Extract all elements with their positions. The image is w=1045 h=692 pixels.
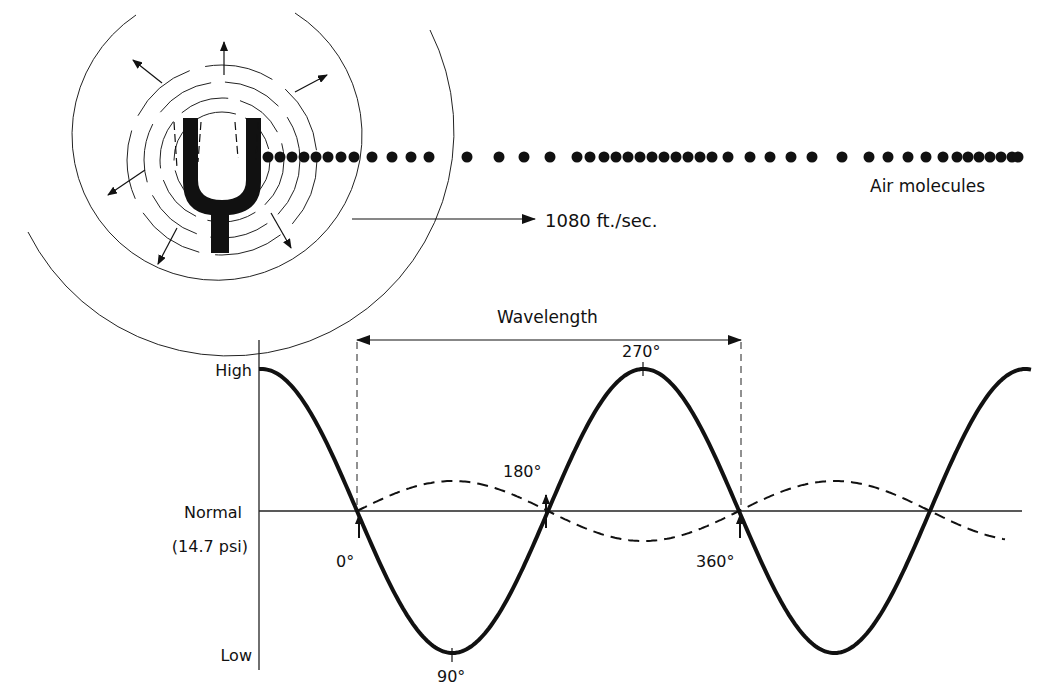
air-molecule	[367, 152, 378, 163]
air-molecule	[903, 152, 914, 163]
air-molecule	[299, 152, 310, 163]
air-molecule	[263, 152, 274, 163]
sound-wave-diagram: Air molecules 1080 ft./sec. Wavelength H…	[0, 0, 1045, 692]
air-molecule	[349, 152, 360, 163]
air-molecule	[462, 152, 473, 163]
speed-label: 1080 ft./sec.	[545, 210, 657, 231]
air-molecule	[952, 152, 963, 163]
air-molecule	[387, 152, 398, 163]
phase-label-0: 0°	[336, 552, 354, 571]
air-molecule	[599, 152, 610, 163]
air-molecule	[287, 152, 298, 163]
pressure-graph: Wavelength High Normal (14.7 psi) Low 0°…	[172, 307, 1031, 686]
air-molecule	[671, 152, 682, 163]
air-molecule	[275, 152, 286, 163]
air-molecule	[336, 152, 347, 163]
air-molecule	[519, 152, 530, 163]
air-molecule	[611, 152, 622, 163]
y-label-low: Low	[220, 646, 252, 665]
air-molecule	[647, 152, 658, 163]
air-molecule	[985, 152, 996, 163]
air-molecule	[311, 152, 322, 163]
air-molecule	[837, 152, 848, 163]
air-molecule	[707, 152, 718, 163]
air-molecule	[585, 152, 596, 163]
phase-label-360: 360°	[696, 552, 735, 571]
air-molecule	[695, 152, 706, 163]
air-molecules-label: Air molecules	[870, 176, 985, 196]
air-molecule	[807, 152, 818, 163]
phase-label-90: 90°	[437, 667, 465, 686]
air-molecule	[545, 152, 556, 163]
air-molecule	[963, 152, 974, 163]
tuning-fork-icon	[174, 118, 261, 253]
air-molecule	[938, 152, 949, 163]
air-molecule	[659, 152, 670, 163]
y-label-high: High	[215, 361, 252, 380]
air-molecule	[623, 152, 634, 163]
wavelength-label: Wavelength	[497, 307, 598, 327]
y-label-normal: Normal	[184, 503, 242, 522]
air-molecule	[683, 152, 694, 163]
air-molecule	[1013, 152, 1024, 163]
air-molecule	[494, 152, 505, 163]
air-molecule	[424, 152, 435, 163]
air-molecule	[974, 152, 985, 163]
air-molecule	[406, 152, 417, 163]
phase-label-270: 270°	[622, 342, 661, 361]
air-molecule	[635, 152, 646, 163]
air-molecule	[723, 152, 734, 163]
y-label-normal-psi: (14.7 psi)	[172, 537, 248, 556]
phase-label-180: 180°	[503, 462, 542, 481]
air-molecule	[996, 152, 1007, 163]
air-molecule	[864, 152, 875, 163]
air-molecule	[921, 152, 932, 163]
air-molecule	[572, 152, 583, 163]
air-molecules	[263, 152, 1024, 163]
air-molecule	[765, 152, 776, 163]
air-molecule	[323, 152, 334, 163]
sound-wave-rings	[28, 13, 454, 356]
air-molecule	[883, 152, 894, 163]
air-molecule	[745, 152, 756, 163]
air-molecule	[786, 152, 797, 163]
